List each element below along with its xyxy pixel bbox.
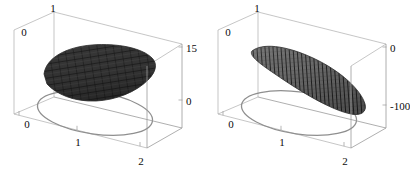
left-z-tick-15: 15 — [186, 42, 198, 54]
left-z-tick-0: 0 — [186, 95, 192, 107]
right-y-tick-0: 0 — [225, 26, 231, 38]
figure-container: 0 1 0 1 2 15 0 — [0, 0, 410, 171]
right-x-tick-1: 1 — [279, 136, 285, 148]
left-x-tick-2: 2 — [138, 155, 144, 167]
right-x-tick-2: 2 — [342, 155, 348, 167]
left-y-tick-0: 0 — [21, 26, 27, 38]
left-y-tick-1: 1 — [50, 2, 56, 14]
right-surface-plot: 0 1 0 1 2 0 -100 — [205, 0, 410, 171]
left-surface-mesh — [30, 35, 175, 115]
left-x-tick-1: 1 — [75, 136, 81, 148]
left-plot-svg: 0 1 0 1 2 15 0 — [0, 0, 205, 171]
left-x-tick-0: 0 — [24, 118, 30, 130]
right-z-tick-neg100: -100 — [390, 100, 410, 112]
right-z-tick-0: 0 — [390, 42, 396, 54]
left-surface-plot: 0 1 0 1 2 15 0 — [0, 0, 205, 171]
right-y-tick-1: 1 — [254, 2, 260, 14]
right-x-tick-0: 0 — [228, 118, 234, 130]
right-plot-svg: 0 1 0 1 2 0 -100 — [205, 0, 410, 171]
